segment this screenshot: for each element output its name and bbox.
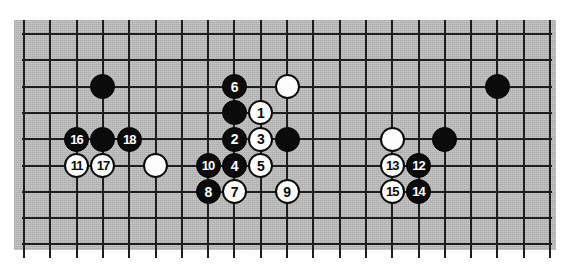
- go-stone-white[interactable]: [380, 127, 405, 152]
- go-stone-black[interactable]: [485, 74, 510, 99]
- go-stone-black-move-4[interactable]: 4: [222, 153, 247, 178]
- grid-line-horizontal: [22, 33, 552, 35]
- go-stone-black-move-6[interactable]: 6: [222, 74, 247, 99]
- go-stone-black-move-10[interactable]: 10: [196, 153, 221, 178]
- go-stone-black-move-2[interactable]: 2: [222, 127, 247, 152]
- go-stone-black[interactable]: [275, 127, 300, 152]
- grid-line-horizontal: [22, 112, 552, 114]
- go-stone-black-move-8[interactable]: 8: [196, 179, 221, 204]
- go-stone-black-move-18[interactable]: 18: [117, 127, 142, 152]
- go-stone-black[interactable]: [432, 127, 457, 152]
- go-stone-white-move-3[interactable]: 3: [248, 127, 273, 152]
- go-stone-white[interactable]: [143, 153, 168, 178]
- go-stone-black-move-16[interactable]: 16: [64, 127, 89, 152]
- go-stone-white-move-11[interactable]: 11: [64, 153, 89, 178]
- go-stone-black-move-12[interactable]: 12: [406, 153, 431, 178]
- grid-line-horizontal: [22, 217, 552, 219]
- go-diagram-scene: 611618231117104513128791514: [0, 0, 570, 268]
- go-stone-white-move-15[interactable]: 15: [380, 179, 405, 204]
- go-stone-white-move-13[interactable]: 13: [380, 153, 405, 178]
- go-stone-white-move-9[interactable]: 9: [275, 179, 300, 204]
- go-stone-white[interactable]: [275, 74, 300, 99]
- go-stone-black[interactable]: [90, 127, 115, 152]
- grid-line-horizontal: [22, 243, 552, 245]
- grid-line-horizontal: [22, 59, 552, 61]
